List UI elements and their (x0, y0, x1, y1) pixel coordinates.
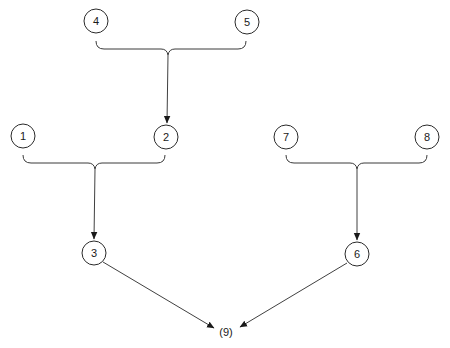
node-5-label: 5 (244, 16, 250, 28)
node-8-label: 8 (424, 131, 430, 143)
merge-brace-7-8 (286, 155, 427, 240)
merge-brace-4-5 (96, 41, 246, 123)
node-3-label: 3 (91, 247, 97, 259)
merge-tree-diagram: 4 5 1 2 7 8 3 6 (9) (0, 0, 450, 348)
node-4: 4 (84, 9, 108, 33)
arrow-to-node-3 (94, 169, 95, 239)
node-1: 1 (11, 124, 35, 148)
node-2-label: 2 (163, 131, 169, 143)
node-2: 2 (154, 125, 178, 149)
node-7: 7 (274, 125, 298, 149)
node-4-label: 4 (93, 15, 99, 27)
node-6-label: 6 (354, 248, 360, 260)
merge-brace-1-2 (23, 155, 165, 239)
node-8: 8 (415, 125, 439, 149)
node-3: 3 (82, 241, 106, 265)
final-node-9-label: (9) (219, 326, 232, 338)
node-6: 6 (345, 242, 369, 266)
arrow-to-node-2 (167, 55, 168, 123)
arrow-3-to-9 (103, 262, 214, 328)
node-7-label: 7 (283, 131, 289, 143)
node-1-label: 1 (20, 130, 26, 142)
node-5: 5 (235, 10, 259, 34)
arrow-6-to-9 (240, 263, 347, 327)
